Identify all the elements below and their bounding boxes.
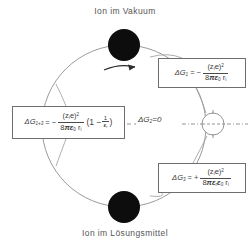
delta-g3-subscript: 3	[183, 177, 186, 182]
num3-pow: 2	[221, 168, 224, 173]
delta-g13-fraction: (zie)2 8πε0 ri	[58, 112, 83, 132]
den13-r-sub: i	[81, 127, 82, 132]
delta-g3-symbol: ΔG	[172, 173, 183, 182]
delta-g1-fraction: (zie)2 8πε0 ri	[203, 63, 228, 83]
den-r-sub: i	[225, 77, 226, 82]
delta-g2-symbol: ΔG	[138, 115, 150, 124]
equation-delta-g1: ΔG1 = − (zie)2 8πε0 ri	[175, 63, 230, 83]
den3-r-sub: i	[228, 182, 229, 187]
connector-arc-dg13-top	[56, 84, 66, 106]
formula-box-delta-g3: ΔG3 = + (zie)2 8πεrε0 ri	[158, 163, 246, 193]
delta-g1-denominator: 8πε0 ri	[203, 73, 228, 84]
formula-box-delta-g1: ΔG1 = − (zie)2 8πε0 ri	[158, 58, 246, 88]
delta-g13-lhs: ΔG1+3	[25, 118, 44, 127]
ion-solvent-circle	[108, 191, 140, 223]
paren-close: )	[110, 118, 113, 127]
delta-g3-operator: = +	[188, 174, 199, 182]
delta-g13-subscript: 1+3	[35, 121, 43, 126]
connector-arc-dg1-bottom	[196, 88, 206, 113]
delta-g1-lhs: ΔG1	[175, 69, 188, 78]
delta-g3-fraction: (zie)2 8πεrε0 ri	[200, 168, 230, 188]
inverse-epsilon-fraction: 1 εr	[102, 115, 108, 130]
inv-eps-den: εr	[102, 121, 108, 130]
delta-g13-correction-term: (1 − 1 εr )	[87, 115, 113, 130]
clockwise-arrow-icon	[104, 65, 135, 71]
delta-g13-denominator: 8πε0 ri	[58, 122, 83, 133]
inv-eps-sub: r	[106, 125, 107, 129]
num13-tail: e)	[70, 111, 77, 120]
formula-box-delta-g1plus3: ΔG1+3 = − (zie)2 8πε0 ri (1 − 1 εr )	[12, 106, 125, 139]
delta-g1-operator: = −	[190, 69, 201, 77]
den-eps-sub: 0	[218, 77, 221, 82]
delta-g1-subscript: 1	[186, 72, 189, 77]
equation-delta-g2: ΔG2=0	[137, 115, 162, 124]
delta-g1-symbol: ΔG	[175, 68, 186, 77]
delta-g13-operator: = −	[45, 119, 56, 127]
connector-arc-dg3-top	[193, 136, 207, 163]
diagram-canvas: Ion im Vakuum Ion im Lösungsmittel ΔG1 =…	[0, 0, 250, 247]
num13-pow: 2	[77, 112, 80, 117]
equation-delta-g3: ΔG3 = + (zie)2 8πεrε0 ri	[172, 168, 232, 188]
ion-vacuum-circle	[108, 29, 140, 61]
delta-g2-value: =0	[152, 115, 161, 124]
num-pow: 2	[221, 63, 224, 68]
delta-g3-denominator: 8πεrε0 ri	[200, 178, 230, 189]
delta-g13-numerator: (zie)2	[61, 112, 82, 122]
paren-open: (1 −	[87, 118, 102, 127]
label-ion-im-loesungsmittel: Ion im Lösungsmittel	[0, 228, 250, 238]
den3-eps-0-sub: 0	[221, 182, 224, 187]
delta-g3-numerator: (zie)2	[205, 168, 226, 178]
equation-delta-g1plus3: ΔG1+3 = − (zie)2 8πε0 ri (1 − 1 εr )	[25, 112, 113, 132]
delta-g1-numerator: (zie)2	[205, 63, 226, 73]
delta-g3-lhs: ΔG3	[172, 174, 185, 183]
den13-eps-sub: 0	[73, 127, 76, 132]
label-ion-im-vakuum: Ion im Vakuum	[0, 6, 250, 16]
delta-g13-symbol: ΔG	[25, 117, 36, 126]
connector-arc-dg13-bottom	[56, 139, 66, 166]
